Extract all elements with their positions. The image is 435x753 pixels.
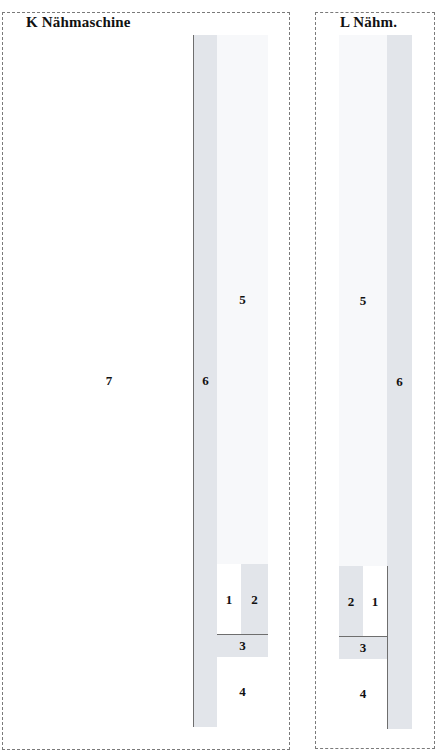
l-cell-3: 3 — [339, 636, 388, 660]
l-cell-5: 5 — [339, 35, 388, 567]
k-cell-4: 4 — [217, 657, 268, 727]
l-cell-6: 6 — [387, 35, 412, 729]
k-cell-5: 5 — [217, 35, 268, 565]
panel-l-frame: 5 6 2 1 3 4 — [339, 35, 412, 729]
k-cell-2: 2 — [241, 564, 268, 635]
k-cell-1: 1 — [217, 564, 242, 635]
panel-l-title: L Nähm. — [340, 14, 397, 31]
k-cell-3: 3 — [217, 634, 268, 658]
panel-k-frame: 7 6 5 1 2 3 4 — [25, 35, 268, 727]
l-cell-4: 4 — [339, 659, 388, 729]
panel-k-title: K Nähmaschine — [26, 14, 131, 31]
k-cell-7: 7 — [25, 35, 194, 727]
l-cell-2: 2 — [339, 566, 364, 637]
l-cell-1: 1 — [363, 566, 388, 637]
k-cell-6: 6 — [193, 35, 218, 727]
